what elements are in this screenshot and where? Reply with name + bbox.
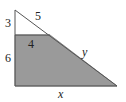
- label-4: 4: [28, 37, 34, 51]
- label-x: x: [57, 87, 64, 101]
- label-5: 5: [35, 9, 41, 23]
- geometry-diagram: 3 5 4 6 y x: [0, 0, 126, 102]
- label-y: y: [81, 45, 88, 59]
- label-3: 3: [5, 16, 11, 30]
- label-6: 6: [5, 51, 11, 65]
